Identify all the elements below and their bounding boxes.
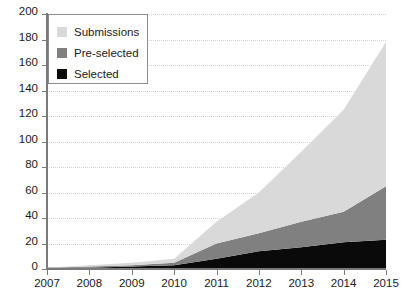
stacked-area-chart: 020406080100120140160180200 200720082009… xyxy=(0,0,409,304)
x-axis-tick-mark xyxy=(259,270,260,275)
legend-item-selected: Selected xyxy=(57,63,147,84)
y-axis-tick-label: 0 xyxy=(32,261,38,272)
y-axis-tick-label: 140 xyxy=(19,83,38,94)
y-axis-tick-label: 120 xyxy=(19,108,38,119)
legend-swatch-submissions xyxy=(57,27,67,37)
chart-legend: Submissions Pre-selected Selected xyxy=(48,14,148,84)
x-axis-tick-mark xyxy=(47,270,48,275)
legend-swatch-pre-selected xyxy=(57,48,67,58)
x-axis-tick-label: 2015 xyxy=(364,277,408,289)
y-axis-tick-label: 200 xyxy=(19,6,38,17)
x-axis-tick-label: 2011 xyxy=(195,277,239,289)
x-axis-tick-mark xyxy=(217,270,218,275)
legend-swatch-selected xyxy=(57,69,67,79)
x-axis-tick-label: 2010 xyxy=(152,277,196,289)
x-axis-tick-mark xyxy=(89,270,90,275)
x-axis-tick-mark xyxy=(344,270,345,275)
x-axis-tick-mark xyxy=(301,270,302,275)
x-axis-tick-label: 2012 xyxy=(237,277,281,289)
x-axis-tick-label: 2013 xyxy=(279,277,323,289)
legend-item-pre-selected: Pre-selected xyxy=(57,42,147,63)
y-axis-tick-label: 20 xyxy=(25,236,38,247)
legend-item-submissions: Submissions xyxy=(57,21,147,42)
x-axis-tick-mark xyxy=(174,270,175,275)
y-axis-tick-label: 80 xyxy=(25,159,38,170)
x-axis-tick-mark xyxy=(386,270,387,275)
legend-label-selected: Selected xyxy=(74,68,119,80)
x-axis-tick-label: 2007 xyxy=(25,277,69,289)
x-axis-tick-label: 2008 xyxy=(67,277,111,289)
legend-label-pre-selected: Pre-selected xyxy=(74,47,139,59)
y-axis-tick-label: 100 xyxy=(19,134,38,145)
x-axis-tick-label: 2014 xyxy=(322,277,366,289)
y-axis-tick-label: 180 xyxy=(19,32,38,43)
x-axis-tick-mark xyxy=(132,270,133,275)
x-axis-tick-label: 2009 xyxy=(110,277,154,289)
y-axis-tick-label: 160 xyxy=(19,57,38,68)
y-axis-tick-label: 40 xyxy=(25,210,38,221)
y-axis-tick-label: 60 xyxy=(25,185,38,196)
legend-label-submissions: Submissions xyxy=(74,26,139,38)
